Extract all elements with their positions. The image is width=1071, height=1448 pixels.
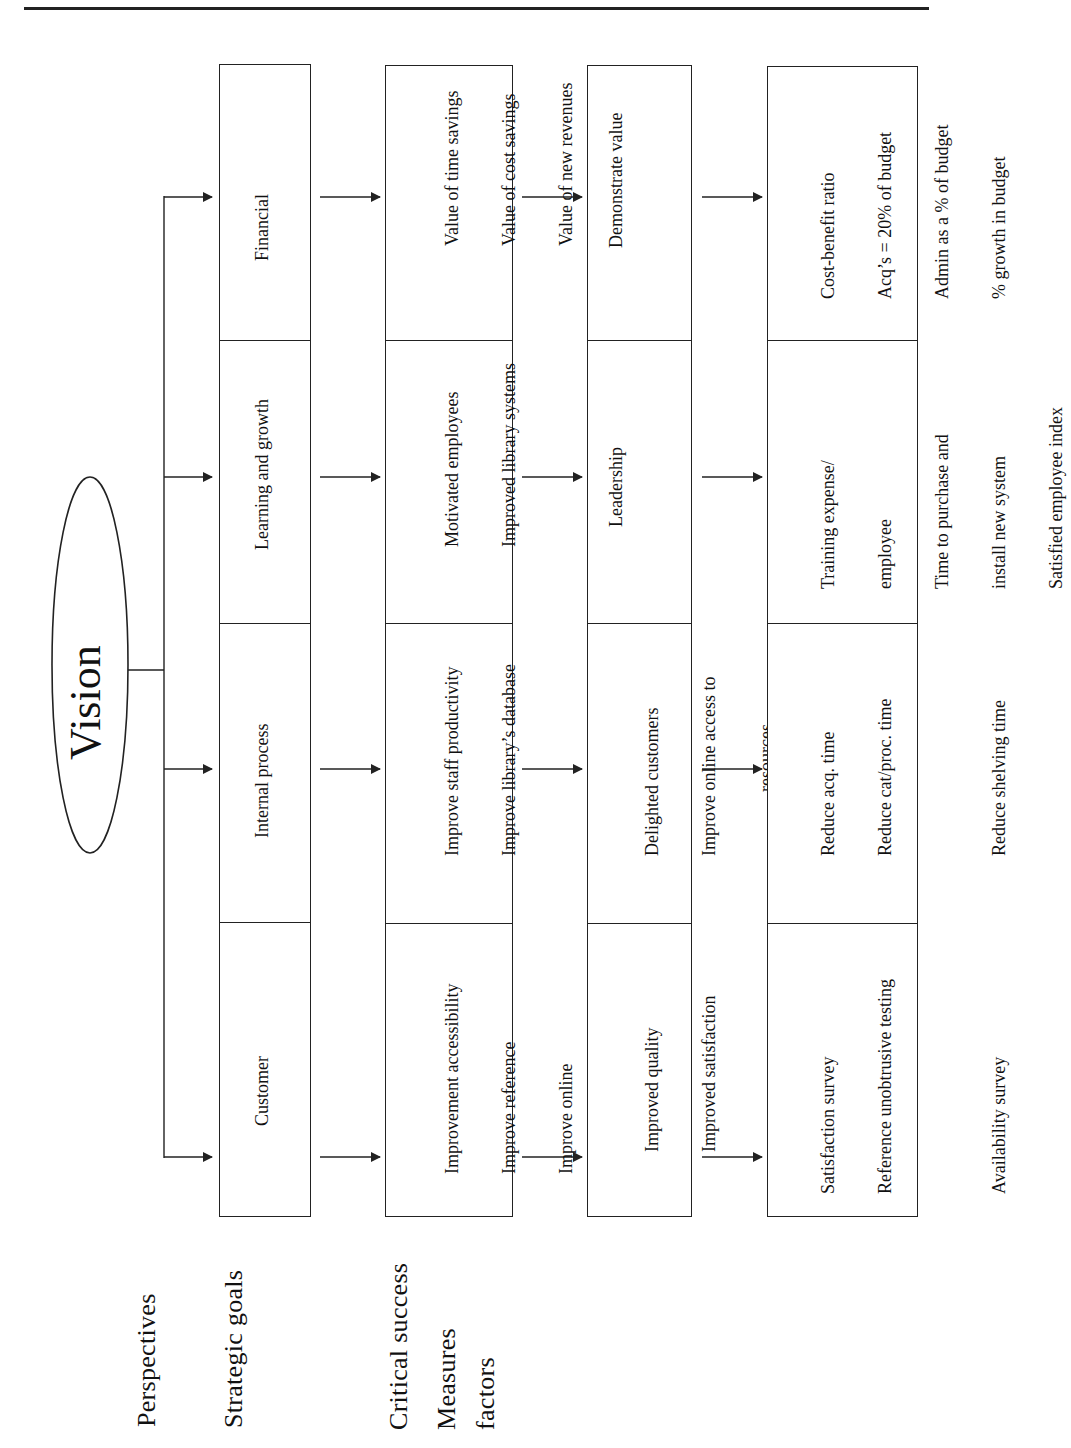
row-label-measures: Measures xyxy=(432,1328,461,1430)
perspective-label: Internal process xyxy=(252,724,273,838)
strategic-goal-customer: Improvement accessibility Improve refere… xyxy=(386,924,512,1216)
measures-column: Cost-benefit ratio Acq’s = 20% of budget… xyxy=(767,66,918,1217)
vision-label: Vision xyxy=(60,645,111,760)
measure-lines: Training expense/ employee Time to purch… xyxy=(782,407,1071,589)
perspective-learning-growth: Learning and growth xyxy=(220,341,310,623)
measure-lines: Reduce acq. time Reduce cat/proc. time R… xyxy=(782,699,1046,856)
perspective-label: Learning and growth xyxy=(252,399,273,550)
perspective-label: Financial xyxy=(252,194,273,261)
strategic-goal-internal-process: Improve staff productivity Improve libra… xyxy=(386,624,512,923)
strategic-goal-learning-growth: Motivated employees Improved library sys… xyxy=(386,341,512,623)
strategic-goal-financial: Value of time savings Value of cost savi… xyxy=(386,66,512,340)
perspective-financial: Financial xyxy=(220,65,310,340)
measure-lines: Cost-benefit ratio Acq’s = 20% of budget… xyxy=(782,125,1046,299)
measure-learning-growth: Training expense/ employee Time to purch… xyxy=(768,341,917,623)
perspectives-column: Financial Learning and growth Internal p… xyxy=(219,64,311,1217)
csf-column: Demonstrate value Leadership Delighted c… xyxy=(587,65,692,1217)
row-label-critical-success-factors: Critical success factors xyxy=(326,1263,529,1430)
csf-internal-process: Delighted customers Improve online acces… xyxy=(588,624,691,923)
perspective-customer: Customer xyxy=(220,923,310,1217)
csf-line: Leadership xyxy=(606,447,627,527)
row-label-perspectives: Perspectives xyxy=(132,1293,161,1427)
measure-internal-process: Reduce acq. time Reduce cat/proc. time R… xyxy=(768,624,917,923)
measure-customer: Satisfaction survey Reference unobtrusiv… xyxy=(768,924,917,1216)
csf-learning-growth: Leadership xyxy=(588,341,691,623)
measure-financial: Cost-benefit ratio Acq’s = 20% of budget… xyxy=(768,67,917,340)
csf-line: Demonstrate value xyxy=(606,113,627,248)
perspective-internal-process: Internal process xyxy=(220,624,310,922)
csf-lines: Improved quality Improved satisfaction xyxy=(606,996,756,1152)
csf-customer: Improved quality Improved satisfaction xyxy=(588,924,691,1216)
goal-lines: Improve staff productivity Improve libra… xyxy=(406,664,556,856)
strategic-goals-column: Value of time savings Value of cost savi… xyxy=(385,65,513,1217)
goal-lines: Value of time savings Value of cost savi… xyxy=(406,83,613,246)
goal-lines: Motivated employees Improved library sys… xyxy=(406,363,556,547)
measure-lines: Satisfaction survey Reference unobtrusiv… xyxy=(782,979,1046,1194)
csf-financial: Demonstrate value xyxy=(588,66,691,340)
perspective-label: Customer xyxy=(252,1056,273,1126)
row-label-strategic-goals: Strategic goals xyxy=(219,1270,248,1428)
